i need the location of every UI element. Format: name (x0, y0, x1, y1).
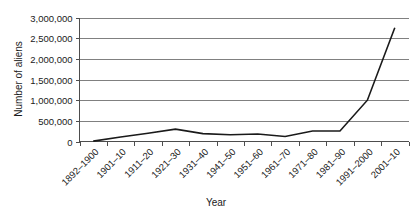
y-axis-ticks (76, 19, 80, 143)
data-series (93, 28, 395, 141)
x-axis-title: Year (206, 197, 227, 208)
y-axis-title: Number of aliens (13, 41, 24, 117)
y-axis-tick-label: 2,000,000 (30, 54, 72, 65)
line-chart: 0500,0001,000,0001,500,0002,000,0002,500… (0, 0, 420, 219)
series-line-number-of-aliens (93, 28, 395, 141)
chart-container: 0500,0001,000,0001,500,0002,000,0002,500… (0, 0, 420, 219)
x-axis-ticks (81, 142, 410, 146)
y-axis-tick-label: 1,000,000 (30, 95, 72, 106)
y-axis-tick-labels: 0500,0001,000,0001,500,0002,000,0002,500… (30, 13, 72, 148)
gridlines (80, 19, 409, 122)
x-axis-category-label: 2001–10 (368, 146, 402, 180)
x-axis-category-labels: 1892–19001901–101911–201921–301931–40194… (59, 146, 402, 187)
x-axis-category-label: 1901–10 (94, 146, 128, 180)
y-axis-tick-label: 500,000 (38, 116, 72, 127)
y-axis-tick-label: 0 (67, 137, 72, 148)
x-axis-category-label: 1892–1900 (59, 146, 100, 187)
y-axis-tick-label: 1,500,000 (30, 75, 72, 86)
y-axis-tick-label: 2,500,000 (30, 33, 72, 44)
y-axis-tick-label: 3,000,000 (30, 13, 72, 24)
